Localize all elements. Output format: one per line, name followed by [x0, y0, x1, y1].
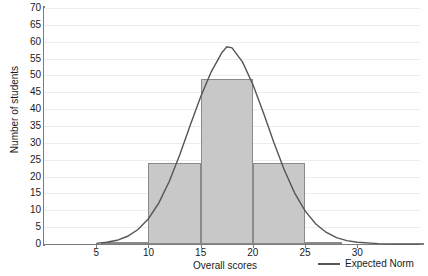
- y-axis-tick-label: 10: [1, 205, 41, 215]
- y-axis-tick-label: 65: [1, 20, 41, 30]
- y-axis-tick-label: 50: [1, 70, 41, 80]
- y-axis-tick-labels: 0510152025303540455055606570: [0, 0, 41, 276]
- y-axis-tick-label: 20: [1, 172, 41, 182]
- plot-area: [44, 8, 420, 244]
- expected-norm-curve: [44, 8, 420, 244]
- x-axis-tick-mark: [357, 245, 358, 248]
- legend-label-expected-norm: Expected Norm: [345, 258, 414, 269]
- x-axis-tick-mark: [148, 245, 149, 248]
- x-axis-tick-label: 30: [337, 247, 377, 258]
- y-axis-tick-label: 15: [1, 188, 41, 198]
- y-axis-tick-label: 60: [1, 37, 41, 47]
- x-axis-tick-label: 15: [181, 247, 221, 258]
- y-axis-tick-label: 45: [1, 87, 41, 97]
- x-axis-tick-mark: [305, 245, 306, 248]
- y-axis-tick-label: 30: [1, 138, 41, 148]
- y-axis-tick-label: 35: [1, 121, 41, 131]
- histogram-chart: 0510152025303540455055606570 Number of s…: [0, 0, 428, 276]
- y-axis-tick-label: 70: [1, 3, 41, 13]
- x-axis-title: Overall scores: [150, 260, 300, 271]
- chart-legend: Expected Norm: [318, 258, 414, 269]
- x-axis-tick-label: 5: [76, 247, 116, 258]
- y-axis-tick-label: 25: [1, 155, 41, 165]
- x-axis-tick-mark: [201, 245, 202, 248]
- y-axis-tick-label: 5: [1, 222, 41, 232]
- y-axis-tick-label: 55: [1, 54, 41, 64]
- y-axis-tick-label: 0: [1, 239, 41, 249]
- y-axis-title: Number of students: [9, 40, 20, 180]
- x-axis-tick-mark: [253, 245, 254, 248]
- expected-norm-path: [96, 47, 420, 244]
- x-axis-tick-label: 25: [285, 247, 325, 258]
- x-axis-tick-label: 10: [128, 247, 168, 258]
- x-axis-tick-mark: [96, 245, 97, 248]
- x-axis-tick-label: 20: [233, 247, 273, 258]
- legend-line-swatch: [318, 263, 340, 265]
- y-axis-tick-label: 40: [1, 104, 41, 114]
